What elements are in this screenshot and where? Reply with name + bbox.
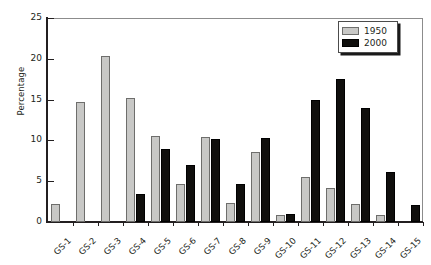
y-axis-tick-mark bbox=[48, 140, 54, 141]
y-axis-tick-mark bbox=[48, 100, 54, 101]
legend: 1950 2000 bbox=[338, 21, 398, 53]
legend-item-2000[interactable]: 2000 bbox=[342, 37, 393, 49]
x-axis-tick-mark bbox=[198, 222, 199, 226]
x-axis-tick-mark bbox=[73, 222, 74, 226]
x-axis-tick-mark bbox=[348, 222, 349, 226]
x-axis-tick-mark bbox=[123, 222, 124, 226]
x-axis-tick-mark bbox=[298, 222, 299, 226]
x-axis-tick-mark bbox=[223, 222, 224, 226]
x-axis-tick-mark bbox=[148, 222, 149, 226]
x-axis-tick-mark bbox=[398, 222, 399, 226]
bar-chart: Percentage 0510152025 GS-1GS-2GS-3GS-4GS… bbox=[0, 0, 431, 265]
x-axis-tick-mark bbox=[373, 222, 374, 226]
x-axis-tick-mark bbox=[323, 222, 324, 226]
legend-swatch-2000-icon bbox=[342, 39, 359, 47]
y-axis-tick-mark bbox=[48, 59, 54, 60]
legend-label-2000: 2000 bbox=[364, 39, 387, 48]
x-axis-tick-mark bbox=[173, 222, 174, 226]
y-axis-tick-mark bbox=[48, 18, 54, 19]
x-axis-tick-mark bbox=[98, 222, 99, 226]
x-axis-tick-mark bbox=[273, 222, 274, 226]
x-axis-tick-mark bbox=[248, 222, 249, 226]
legend-item-1950[interactable]: 1950 bbox=[342, 25, 393, 37]
x-axis-tick-mark bbox=[423, 222, 424, 226]
legend-label-1950: 1950 bbox=[364, 27, 387, 36]
legend-swatch-1950-icon bbox=[342, 27, 359, 35]
y-axis-tick-mark bbox=[48, 181, 54, 182]
